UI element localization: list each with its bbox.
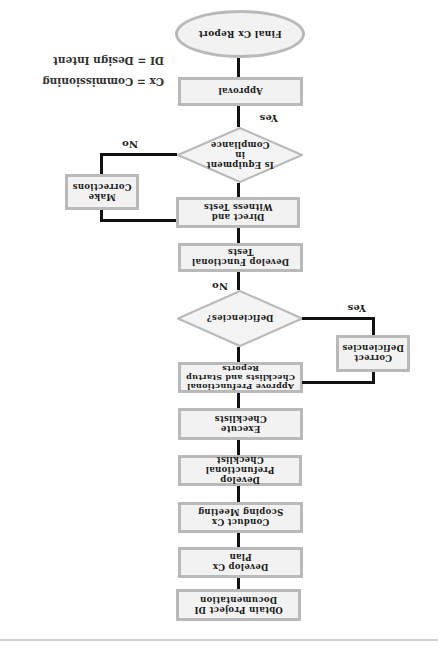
legend-di: DI = Design Intent [53,55,164,67]
step-label: Direct and Witness Tests [198,203,278,223]
connector-yes [302,317,375,320]
connector [237,228,240,243]
connector-yes [237,106,240,127]
step-conduct-scoping-meeting: Conduct Cx Scoping Meeting [178,502,303,533]
flowchart-canvas: Obtain Project DI Documentation Develop … [0,0,438,652]
connector-no [237,272,240,290]
connector-no [100,153,103,174]
connector-no [100,153,177,156]
connector [237,578,240,589]
step-label: Correct Deficiencies [342,344,404,364]
step-label: Develop Cx Plan [211,553,271,573]
step-correct-deficiencies: Correct Deficiencies [336,335,410,372]
connector-return [302,381,375,384]
decision-label: Is Equipment in Compliance [205,140,275,170]
decision-equipment-compliance: Is Equipment in Compliance [177,127,303,183]
step-label: Develop Prefunctional Checklist [185,456,295,486]
terminal-label: Final Cx Report [198,29,281,39]
step-execute-checklists: Execute Checklists [178,408,303,440]
decision-label: Deficiencies? [206,314,273,324]
step-develop-prefunctional-checklist: Develop Prefunctional Checklist [178,455,302,486]
step-develop-cx-plan: Develop Cx Plan [178,547,303,578]
connector [237,58,240,77]
connector-return [100,219,176,222]
connector [237,393,240,408]
step-label: Approve Prefunctional Checklists and Sta… [185,364,296,391]
step-label: Conduct Cx Scoping Meeting [196,508,286,528]
terminal-final-cx-report: Final Cx Report [175,10,305,58]
step-direct-witness-tests: Direct and Witness Tests [176,197,300,228]
edge-label-yes: Yes [348,303,366,314]
connector [237,440,240,455]
step-approve-prefunctional: Approve Prefunctional Checklists and Sta… [178,362,303,393]
connector [237,347,240,362]
connector [237,486,240,502]
step-label: Make Corrections [72,182,132,202]
connector [237,183,240,197]
decision-deficiencies: Deficiencies? [177,290,303,347]
step-label: Obtain Project DI Documentation [183,595,294,615]
edge-label-yes: Yes [260,113,278,124]
step-label: Approval [218,87,263,97]
step-develop-functional-tests: Develop Functional Tests [178,243,303,272]
step-label: Develop Functional Tests [188,248,293,268]
step-obtain-documentation: Obtain Project DI Documentation [176,589,301,621]
connector-yes [372,317,375,335]
legend-cx: Cx = Commissioning [42,76,164,88]
step-approval: Approval [178,77,303,106]
edge-label-no: No [122,139,138,150]
step-make-corrections: Make Corrections [65,174,139,210]
bottom-rule [0,639,438,641]
step-label: Execute Checklists [211,414,271,434]
edge-label-no: No [212,281,228,292]
connector [237,533,240,547]
